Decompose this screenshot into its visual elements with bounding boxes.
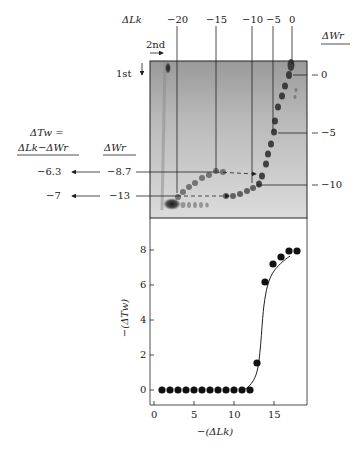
dwr-left-header: ΔWr xyxy=(104,142,126,154)
dwr-right-tick: 0 xyxy=(321,69,327,81)
dtw-header-line2: ΔLk−ΔWr xyxy=(18,142,68,154)
x-axis-label: −(ΔLk) xyxy=(197,426,233,438)
direction-2nd-label: 2nd xyxy=(146,39,165,51)
y-tick-label: 8 xyxy=(140,244,146,256)
dlk-tick-label: −5 xyxy=(266,14,281,26)
dlk-tick-label: 0 xyxy=(289,14,295,26)
gel-image xyxy=(150,59,307,218)
dtw-value: −7 xyxy=(46,190,61,202)
dtw-header-line1: ΔTw = xyxy=(30,127,64,139)
y-tick-label: 2 xyxy=(140,349,146,361)
dwr-right-tick: −10 xyxy=(321,179,342,191)
y-tick-label: 6 xyxy=(140,279,146,291)
dwr-right-header: ΔWr xyxy=(322,30,344,42)
fit-curve xyxy=(244,256,290,390)
direction-1st-label: 1st xyxy=(116,68,132,80)
figure-canvas xyxy=(0,0,361,449)
x-tick-label: 15 xyxy=(268,409,281,421)
dlk-tick-label: −10 xyxy=(242,14,263,26)
dwr-value: −8.7 xyxy=(107,166,131,178)
y-axis-label: −(ΔTw) xyxy=(119,299,131,337)
data-points xyxy=(158,247,300,393)
dwr-right-tick: −5 xyxy=(321,127,336,139)
x-tick-label: 0 xyxy=(151,409,157,421)
y-tick-label: 4 xyxy=(140,314,146,326)
x-tick-label: 5 xyxy=(191,409,197,421)
dlk-tick-label: −20 xyxy=(167,14,188,26)
dlk-tick-label: −15 xyxy=(206,14,227,26)
plot-frame xyxy=(150,218,307,405)
dwr-value: −13 xyxy=(109,190,130,202)
y-tick-label: 0 xyxy=(140,384,146,396)
x-tick-label: 10 xyxy=(228,409,241,421)
dlk-axis-label: ΔLk xyxy=(122,14,142,26)
dtw-value: −6.3 xyxy=(37,166,61,178)
